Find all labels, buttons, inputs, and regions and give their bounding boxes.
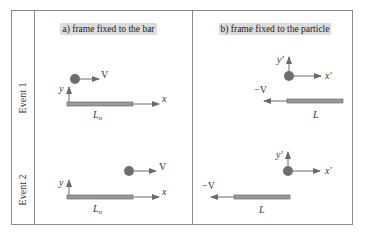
panel-b-event-2: y′ x′ −V L	[202, 149, 332, 215]
panel-b-event-1: y′ x′ −V L	[254, 54, 343, 120]
column-header-b: b) frame fixed to the particle	[219, 23, 331, 35]
y-prime-axis-label: y′	[275, 149, 283, 160]
column-title-a: a) frame fixed to the bar	[62, 24, 155, 35]
y-axis-label: y	[58, 177, 64, 188]
row-label-event-1: Event 1	[17, 83, 28, 114]
length-label: L	[312, 109, 319, 120]
particle	[124, 166, 134, 176]
column-header-a: a) frame fixed to the bar	[60, 23, 157, 35]
panel-a-event-1: V y x Lo	[58, 69, 167, 122]
panel-a-event-2: V y x Lo	[58, 161, 167, 216]
length-label: Lo	[92, 109, 103, 122]
velocity-label: −V	[254, 84, 268, 95]
outer-border	[12, 11, 353, 225]
x-axis-label: x	[161, 93, 167, 104]
bar	[234, 195, 290, 199]
y-prime-axis-label: y′	[276, 54, 284, 65]
relativity-diagram: a) frame fixed to the bar b) frame fixed…	[0, 0, 365, 237]
column-title-b: b) frame fixed to the particle	[221, 24, 330, 35]
velocity-label: V	[159, 161, 167, 172]
length-label: L	[258, 204, 265, 215]
particle	[70, 74, 80, 84]
velocity-label: −V	[202, 180, 216, 191]
row-label-event-2: Event 2	[17, 175, 28, 206]
x-prime-axis-label: x′	[324, 70, 332, 81]
velocity-label: V	[101, 69, 109, 80]
bar	[67, 102, 133, 106]
x-prime-axis-label: x′	[324, 165, 332, 176]
particle	[283, 166, 293, 176]
particle	[284, 71, 294, 81]
x-axis-label: x	[161, 186, 167, 197]
length-label: Lo	[92, 203, 103, 216]
bar	[287, 99, 343, 103]
y-axis-label: y	[58, 83, 64, 94]
bar	[67, 195, 133, 199]
